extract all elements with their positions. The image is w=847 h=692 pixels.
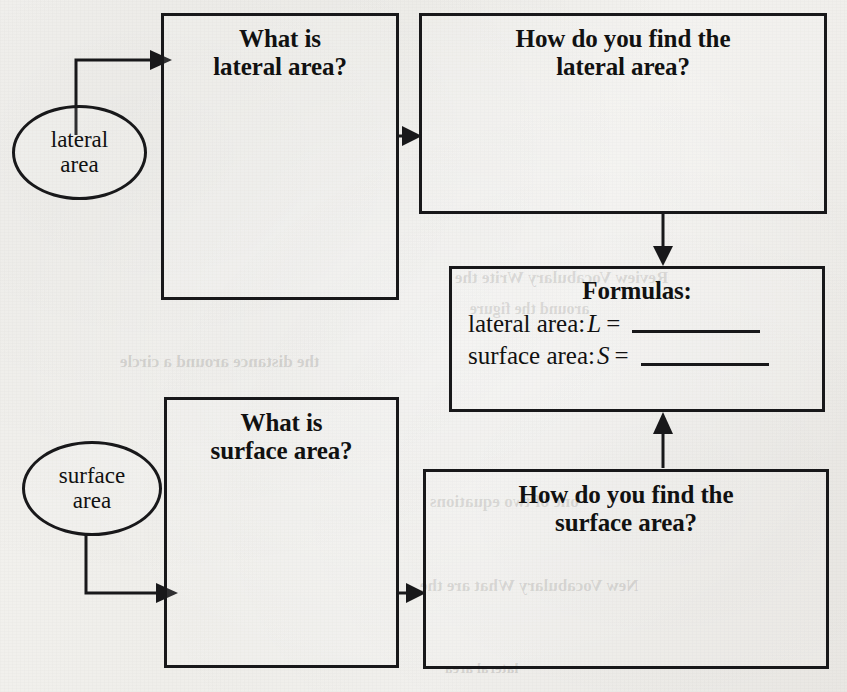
- formula-variable-L: L: [585, 311, 603, 337]
- formula-equals-lateral: =: [603, 311, 620, 337]
- box-what-is-surface-area-label: What is surface area?: [167, 400, 396, 465]
- surface-area-oval-label: surface area: [59, 464, 125, 514]
- connector-how-find-lateral-to-formulas: [653, 213, 673, 266]
- formulas-box[interactable]: Formulas: lateral area: L = surface area…: [449, 266, 825, 412]
- connector-how-find-surface-to-formulas: [653, 412, 673, 468]
- box-how-find-surface-area[interactable]: How do you find the surface area?: [423, 469, 829, 669]
- box-how-find-lateral-area-line2: lateral area?: [422, 53, 824, 81]
- lateral-area-oval[interactable]: lateral area: [12, 105, 147, 200]
- box-what-is-lateral-area-label: What is lateral area?: [164, 16, 396, 81]
- box-how-find-surface-area-line1: How do you find the: [519, 481, 734, 508]
- formula-row-surface-area: surface area: S =: [452, 343, 822, 369]
- formula-label-lateral-area: lateral area:: [468, 311, 585, 337]
- formula-variable-S: S: [595, 343, 612, 369]
- box-how-find-lateral-area[interactable]: How do you find the lateral area?: [419, 13, 827, 214]
- formula-label-surface-area: surface area:: [468, 343, 595, 369]
- surface-area-oval[interactable]: surface area: [22, 441, 162, 536]
- lateral-area-oval-line1: lateral: [51, 127, 108, 152]
- box-what-is-surface-area-line2: surface area?: [167, 437, 396, 465]
- lateral-area-oval-line2: area: [51, 153, 108, 178]
- connector-what-is-surface-to-how-find: [399, 583, 426, 603]
- box-how-find-lateral-area-line1: How do you find the: [516, 25, 731, 52]
- formula-row-lateral-area: lateral area: L =: [452, 311, 822, 337]
- box-what-is-lateral-area-line2: lateral area?: [164, 53, 396, 81]
- box-what-is-lateral-area[interactable]: What is lateral area?: [161, 13, 399, 300]
- box-what-is-surface-area[interactable]: What is surface area?: [164, 397, 399, 668]
- box-what-is-lateral-area-line1: What is: [239, 25, 321, 52]
- surface-area-oval-line1: surface: [59, 463, 125, 488]
- box-what-is-surface-area-line1: What is: [241, 409, 323, 436]
- lateral-area-oval-label: lateral area: [51, 128, 108, 178]
- formula-blank-surface-area[interactable]: [641, 363, 769, 366]
- diagram-canvas: lateral area surface area What is latera…: [0, 0, 847, 692]
- formula-blank-lateral-area[interactable]: [632, 330, 760, 333]
- surface-area-oval-line2: area: [59, 489, 125, 514]
- box-how-find-lateral-area-label: How do you find the lateral area?: [422, 16, 824, 81]
- box-how-find-surface-area-line2: surface area?: [426, 509, 826, 537]
- box-how-find-surface-area-label: How do you find the surface area?: [426, 472, 826, 537]
- formula-equals-surface: =: [611, 343, 628, 369]
- formulas-title: Formulas:: [452, 269, 822, 305]
